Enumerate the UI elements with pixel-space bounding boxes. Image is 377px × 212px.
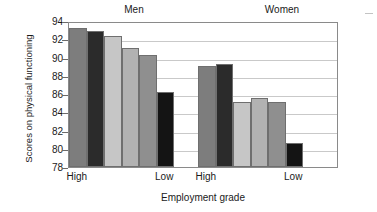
bar-chart-figure: Men Women Scores on physical functioning… [0,0,377,212]
y-tick-mark-78 [62,168,68,169]
bar-men-2 [87,31,105,167]
x-axis-title: Employment grade [68,192,338,203]
bar-men-6 [157,92,175,167]
group-title-women: Women [240,4,324,15]
bar-women-3 [233,102,251,167]
bar-women-5 [268,102,286,167]
x-tick-label-men-high: High [57,171,97,182]
y-tick-label-90: 90 [39,54,63,64]
x-tick-label-women-high: High [186,171,226,182]
bar-men-4 [122,48,140,167]
bar-women-4 [251,98,269,167]
y-tick-label-82: 82 [39,127,63,137]
bar-women-2 [216,64,234,167]
plot-area [68,22,338,168]
y-tick-label-88: 88 [39,72,63,82]
x-tick-label-men-low: Low [144,171,184,182]
y-tick-label-92: 92 [39,35,63,45]
bar-men-5 [139,55,157,167]
bar-men-1 [69,28,87,167]
y-axis-title: Scores on physical functioning [23,19,34,179]
bar-men-3 [104,36,122,167]
bar-women-6 [286,143,304,167]
x-tick-label-women-low: Low [273,171,313,182]
y-tick-label-84: 84 [39,108,63,118]
y-tick-label-80: 80 [39,145,63,155]
group-title-men: Men [92,4,176,15]
y-tick-label-86: 86 [39,90,63,100]
bar-women-1 [198,66,216,167]
y-tick-label-94: 94 [39,17,63,27]
scan-artifact [365,13,373,14]
